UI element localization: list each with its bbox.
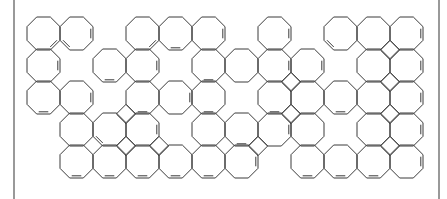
- octagon-ring: [159, 81, 192, 114]
- octagon-ring: [126, 17, 159, 50]
- octagon-ring: [192, 49, 225, 82]
- octagon-ring: [324, 81, 357, 114]
- double-bond-line: [149, 40, 156, 47]
- four-membered-ring: [380, 72, 399, 91]
- octagon-ring: [126, 145, 159, 178]
- octagon-ring: [324, 17, 357, 50]
- double-bond-line: [96, 136, 103, 143]
- double-bonds: [39, 29, 421, 176]
- four-membered-ring: [116, 104, 135, 123]
- octagon-ring: [291, 113, 324, 146]
- octagon-ring: [258, 17, 291, 50]
- double-bond-line: [63, 40, 70, 47]
- octagon-ring: [225, 49, 258, 82]
- octagon-ring: [357, 145, 390, 178]
- four-membered-ring: [380, 40, 399, 59]
- octagon-rings: [27, 17, 423, 178]
- octagon-ring: [60, 113, 93, 146]
- octagon-ring: [27, 81, 60, 114]
- octagon-ring: [60, 145, 93, 178]
- double-bond-line: [50, 40, 57, 47]
- octagon-ring: [60, 81, 93, 114]
- four-membered-ring: [380, 136, 399, 155]
- four-membered-ring: [380, 104, 399, 123]
- octagon-ring: [60, 17, 93, 50]
- octagon-ring: [27, 17, 60, 50]
- four-membered-ring: [281, 72, 300, 91]
- octagon-ring: [126, 49, 159, 82]
- four-membered-ring: [281, 104, 300, 123]
- four-membered-ring: [149, 136, 168, 155]
- octagon-ring: [324, 145, 357, 178]
- octagon-ring: [291, 145, 324, 178]
- octagon-ring: [225, 145, 258, 178]
- octagon-ring: [159, 17, 192, 50]
- octagon-ring: [192, 17, 225, 50]
- four-membered-ring: [116, 136, 135, 155]
- double-bond-line: [327, 40, 334, 47]
- chemical-structure-diagram: [0, 0, 447, 199]
- octagon-ring: [192, 145, 225, 178]
- octagon-ring: [192, 113, 225, 146]
- octagon-ring: [27, 49, 60, 82]
- octagon-ring: [93, 49, 126, 82]
- octagon-ring: [192, 81, 225, 114]
- four-membered-ring: [248, 136, 267, 155]
- octagon-ring: [390, 145, 423, 178]
- octagon-ring: [159, 145, 192, 178]
- octagon-ring: [93, 145, 126, 178]
